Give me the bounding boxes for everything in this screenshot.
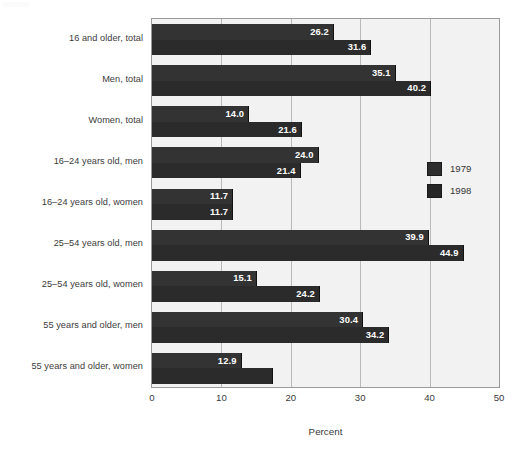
bar-value-label: 24.2 xyxy=(296,289,315,298)
x-tick-label: 10 xyxy=(216,393,227,403)
scan-artifact xyxy=(3,2,29,7)
bar-1998 xyxy=(152,368,273,384)
bar-value-label: 39.9 xyxy=(405,232,424,241)
bar-value-label: 31.6 xyxy=(348,42,367,51)
bar-value-label: 34.2 xyxy=(366,330,385,339)
x-tick-label: 30 xyxy=(355,393,366,403)
category-label: Women, total xyxy=(88,116,143,125)
bar-1998 xyxy=(152,327,389,343)
bar-value-label: 21.6 xyxy=(278,125,297,134)
bar-value-label: 26.2 xyxy=(310,27,329,36)
chart-legend: 1979 1998 xyxy=(427,158,501,202)
bar-1998 xyxy=(152,286,320,302)
bar-value-label: 15.1 xyxy=(233,273,252,282)
bar-value-label: 44.9 xyxy=(440,248,459,257)
category-axis-labels: 16 and older, totalMen, totalWomen, tota… xyxy=(0,18,147,388)
bar-value-label: 14.0 xyxy=(226,109,245,118)
category-label: 16–24 years old, men xyxy=(54,157,143,166)
legend-swatch-icon-1979 xyxy=(427,162,442,176)
category-label: Men, total xyxy=(102,75,143,84)
bar-value-label: 30.4 xyxy=(339,315,358,324)
category-label: 25–54 years old, women xyxy=(42,280,143,289)
bar-value-label: 11.7 xyxy=(210,191,228,200)
x-axis-title: Percent xyxy=(151,427,500,437)
plot-area: 26.231.635.140.214.021.624.021.411.711.7… xyxy=(151,18,500,388)
chart-figure: 16 and older, totalMen, totalWomen, tota… xyxy=(0,0,526,453)
bar-value-label: 12.9 xyxy=(218,356,237,365)
x-tick-label: 20 xyxy=(285,393,296,403)
bar-value-label: 35.1 xyxy=(372,68,391,77)
x-axis: 01020304050 xyxy=(151,389,500,411)
legend-label-1979: 1979 xyxy=(450,164,471,174)
bar-1998 xyxy=(152,40,371,56)
legend-item-1979: 1979 xyxy=(427,158,501,180)
x-tick-label: 50 xyxy=(494,393,505,403)
legend-label-1998: 1998 xyxy=(450,186,471,196)
legend-item-1998: 1998 xyxy=(427,180,501,202)
bar-value-label: 11.7 xyxy=(210,207,228,216)
category-label: 16–24 years old, women xyxy=(42,198,143,207)
bar-1979 xyxy=(152,312,363,328)
x-tick-label: 40 xyxy=(424,393,435,403)
bar-1998 xyxy=(152,245,464,261)
bar-value-label: 24.0 xyxy=(295,150,314,159)
category-label: 55 years and older, women xyxy=(31,362,143,371)
x-tick-label: 0 xyxy=(149,393,154,403)
legend-swatch-icon-1998 xyxy=(427,184,442,198)
category-label: 55 years and older, men xyxy=(43,321,143,330)
bar-value-label: 40.2 xyxy=(407,83,426,92)
bar-1979 xyxy=(152,230,429,246)
bar-value-label: 21.4 xyxy=(277,166,296,175)
bar-1998 xyxy=(152,81,431,97)
gridline-40 xyxy=(430,19,431,387)
category-label: 25–54 years old, men xyxy=(54,239,143,248)
bar-1979 xyxy=(152,147,319,163)
category-label: 16 and older, total xyxy=(69,34,143,43)
bar-1979 xyxy=(152,24,334,40)
bar-1979 xyxy=(152,65,396,81)
